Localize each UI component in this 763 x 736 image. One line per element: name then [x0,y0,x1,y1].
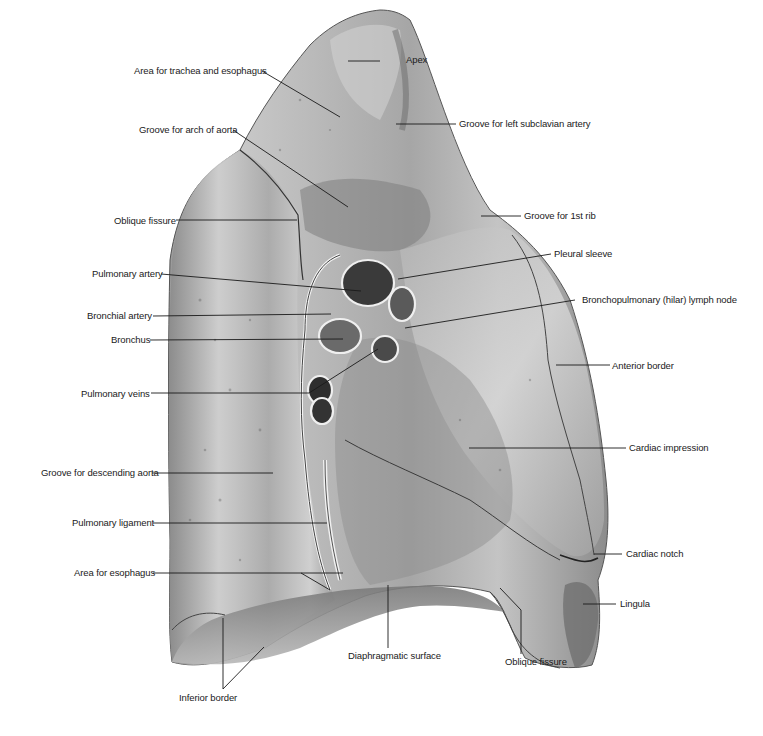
label-pulmonary-artery: Pulmonary artery [92,268,163,279]
label-apex: Apex [406,54,427,65]
label-oblique-fissure-upper: Oblique fissure [114,215,176,226]
label-lingula: Lingula [620,598,650,609]
label-groove-arch-aorta: Groove for arch of aorta [139,124,237,135]
label-anterior-border: Anterior border [612,360,674,371]
label-bronchial-artery: Bronchial artery [87,310,152,321]
label-pulmonary-ligament: Pulmonary ligament [72,517,154,528]
label-pulmonary-veins: Pulmonary veins [81,388,150,399]
label-inferior-border: Inferior border [179,692,237,703]
label-area-trachea-esophagus: Area for trachea and esophagus [134,65,267,76]
label-diaphragmatic-surface: Diaphragmatic surface [348,650,441,661]
label-area-esophagus: Area for esophagus [74,567,155,578]
label-cardiac-impression: Cardiac impression [629,442,709,453]
label-bronchopulmonary-lymph-node: Bronchopulmonary (hilar) lymph node [582,294,737,305]
lung-diagram: Apex Area for trachea and esophagus Groo… [0,0,763,736]
label-cardiac-notch: Cardiac notch [626,548,683,559]
label-bronchus: Bronchus [111,334,150,345]
label-oblique-fissure-lower: Oblique fissure [505,656,567,667]
label-groove-left-subclavian-artery: Groove for left subclavian artery [459,118,590,129]
label-groove-1st-rib: Groove for 1st rib [524,210,596,221]
label-pleural-sleeve: Pleural sleeve [554,248,612,259]
label-groove-descending-aorta: Groove for descending aorta [41,467,159,478]
